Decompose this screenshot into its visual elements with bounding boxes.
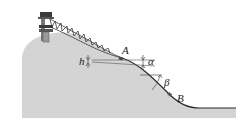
label-beta: β bbox=[163, 76, 170, 88]
label-h: h bbox=[79, 55, 85, 67]
label-a: A bbox=[121, 44, 129, 56]
alpha-angle bbox=[141, 55, 145, 70]
label-alpha: α bbox=[148, 55, 154, 67]
hill-profile bbox=[22, 32, 236, 118]
ski-jump-diagram: h A α β B bbox=[0, 0, 239, 124]
label-b: B bbox=[177, 92, 184, 104]
diagram-svg: h A α β B bbox=[0, 0, 239, 124]
